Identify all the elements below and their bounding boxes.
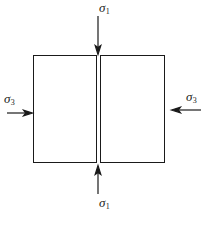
sigma3-left-label: σ3 [4, 92, 15, 107]
sigma3-right-arrow [172, 107, 202, 113]
sigma1-top-label: σ1 [99, 1, 110, 16]
sigma-subscript: 1 [105, 202, 109, 211]
sigma1-bottom-label: σ1 [99, 196, 110, 211]
sigma3-left-arrow [7, 110, 33, 116]
sigma1-bottom-arrow [95, 166, 101, 195]
right-block-rect [101, 56, 165, 163]
left-block-rect [34, 56, 97, 163]
sigma-subscript: 1 [105, 7, 109, 16]
sigma3-right-label: σ3 [186, 90, 197, 105]
sigma-subscript: 3 [192, 96, 196, 105]
specimen-blocks [34, 56, 165, 163]
sigma1-top-arrow [95, 16, 101, 55]
stress-arrows [7, 16, 201, 194]
stress-diagram-figure: σ1 σ1 σ3 σ3 [0, 0, 206, 229]
sigma-subscript: 3 [10, 98, 14, 107]
